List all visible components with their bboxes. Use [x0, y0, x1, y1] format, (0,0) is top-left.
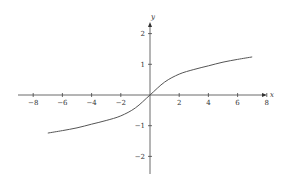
x-tick-label: 8 — [265, 99, 269, 107]
y-tick-label: −2 — [135, 153, 145, 161]
x-tick-label: −6 — [57, 99, 68, 107]
x-tick-label: 4 — [206, 99, 211, 107]
x-tick-label: −4 — [86, 99, 97, 107]
tick-labels: −8−6−4−22468−2−112 — [28, 30, 269, 161]
y-axis-label: y — [150, 13, 156, 21]
axes — [18, 22, 267, 174]
function-plot: −8−6−4−22468−2−112 x y — [0, 0, 286, 185]
y-axis-arrow-icon — [148, 22, 152, 27]
y-tick-label: −1 — [135, 122, 145, 130]
y-tick-label: 1 — [141, 61, 145, 69]
x-tick-label: 2 — [177, 99, 181, 107]
plot-canvas: −8−6−4−22468−2−112 x y — [0, 0, 286, 185]
x-tick-label: 6 — [235, 99, 240, 107]
x-tick-label: −8 — [28, 99, 38, 107]
x-tick-label: −2 — [116, 99, 126, 107]
x-axis-arrow-icon — [262, 93, 267, 97]
y-tick-label: 2 — [141, 30, 145, 38]
x-axis-label: x — [270, 91, 274, 99]
